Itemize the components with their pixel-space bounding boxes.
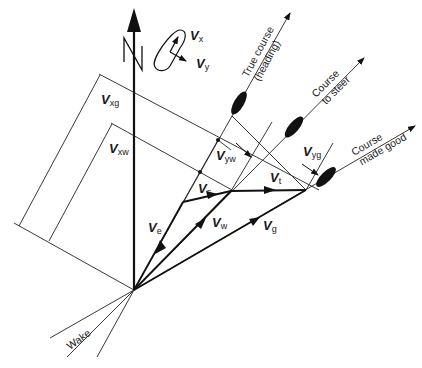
vxg-label: Vxg bbox=[101, 92, 119, 108]
boat-axes-icon bbox=[154, 30, 186, 71]
vxw-label: Vxw bbox=[109, 141, 129, 157]
vyg-label: Vyg bbox=[303, 144, 321, 160]
wake-label: Wake bbox=[64, 326, 93, 351]
vector-diagram: Vx Vy Vxg Vxw Vyw Vyg Vs Vt Ve Vw Vg Tru… bbox=[0, 0, 422, 368]
vw-label: Vw bbox=[212, 215, 228, 231]
course-made-good-label: Course made good bbox=[349, 120, 408, 168]
svg-text:Wake: Wake bbox=[64, 326, 93, 351]
vy-label: Vy bbox=[196, 56, 210, 72]
main-vectors bbox=[134, 186, 306, 290]
wake-lines bbox=[50, 290, 134, 357]
vx-label: Vx bbox=[190, 28, 204, 44]
vg-label: Vg bbox=[263, 218, 277, 234]
true-course-label: True course (heading) bbox=[239, 24, 286, 85]
vs-label: Vs bbox=[198, 181, 212, 197]
vt-label: Vt bbox=[270, 170, 282, 186]
ve-label: Ve bbox=[148, 220, 162, 236]
vyw-label: Vyw bbox=[216, 148, 236, 164]
course-to-steer-label: Course to steer bbox=[309, 64, 353, 108]
